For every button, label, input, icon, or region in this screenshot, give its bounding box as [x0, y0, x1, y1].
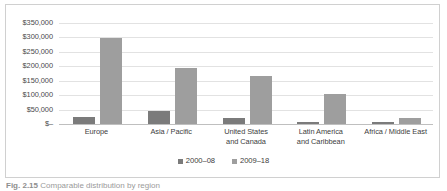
legend-item[interactable]: 2000–08 — [178, 157, 215, 165]
x-axis: EuropeAsia / PacificUnited Statesand Can… — [59, 127, 433, 153]
bar — [250, 76, 272, 124]
figure-caption: Fig. 2.15 Comparable distribution by reg… — [6, 180, 436, 191]
chart-legend: 2000–082009–18 — [6, 157, 441, 165]
bar — [175, 68, 197, 124]
chart-frame: $350,000$300,000$250,000$200,000$150,000… — [5, 4, 440, 178]
y-axis-tick-label: $50,000 — [27, 106, 53, 114]
y-axis-tick-label: $350,000 — [23, 19, 53, 27]
figure-container: $350,000$300,000$250,000$200,000$150,000… — [0, 0, 447, 191]
category-label-line: Europe — [85, 127, 109, 136]
bars-layer — [59, 23, 433, 124]
category-label-line: Latin America — [299, 127, 343, 136]
legend-label: 2000–08 — [186, 157, 215, 165]
bar — [324, 94, 346, 124]
category-label-line: and Caribbean — [283, 137, 358, 147]
legend-swatch-icon — [178, 159, 183, 164]
x-axis-category-label: Asia / Pacific — [134, 127, 209, 137]
bar-group — [209, 23, 284, 124]
x-axis-category-label: Africa / Middle East — [358, 127, 433, 137]
category-label-line: and Canada — [209, 137, 284, 147]
legend-item[interactable]: 2009–18 — [232, 157, 269, 165]
category-label-line: Africa / Middle East — [364, 127, 427, 136]
y-axis-tick-label: $100,000 — [23, 91, 53, 99]
caption-text: Comparable distribution by region — [40, 181, 160, 190]
legend-swatch-icon — [232, 159, 237, 164]
x-axis-category-label: Europe — [59, 127, 134, 137]
bar-group — [283, 23, 358, 124]
x-axis-category-label: Latin Americaand Caribbean — [283, 127, 358, 146]
y-axis-tick-label: $250,000 — [23, 48, 53, 56]
caption-label: Fig. 2.15 — [6, 181, 38, 190]
axis-baseline — [59, 124, 433, 125]
category-label-line: Asia / Pacific — [150, 127, 192, 136]
y-axis-tick-label: $– — [45, 120, 53, 128]
y-axis: $350,000$300,000$250,000$200,000$150,000… — [6, 23, 56, 124]
bar — [399, 118, 421, 124]
bar-group — [59, 23, 134, 124]
bar-group — [358, 23, 433, 124]
y-axis-tick-label: $300,000 — [23, 33, 53, 41]
bar — [297, 122, 319, 124]
y-axis-tick-label: $200,000 — [23, 62, 53, 70]
bar-group — [134, 23, 209, 124]
bar — [372, 122, 394, 124]
bar — [148, 111, 170, 124]
x-axis-category-label: United Statesand Canada — [209, 127, 284, 146]
bar — [73, 117, 95, 124]
category-label-line: United States — [224, 127, 268, 136]
bar — [100, 38, 122, 124]
y-axis-tick-label: $150,000 — [23, 77, 53, 85]
bar — [223, 118, 245, 124]
legend-label: 2009–18 — [240, 157, 269, 165]
